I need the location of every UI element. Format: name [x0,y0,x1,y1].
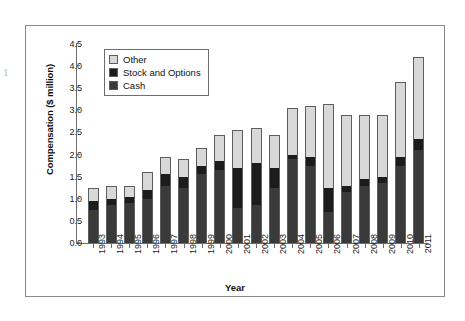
bar-segment-stock [413,139,424,150]
legend-item: Cash [109,79,201,92]
y-axis-tick-label: 4.5 [32,39,82,49]
x-axis-tick-label: 2000 [224,234,235,268]
bar-segment-stock [269,168,280,188]
bar-segment-stock [178,177,189,188]
x-axis-tick-mark [111,244,112,248]
x-axis-tick-label: 2010 [405,234,416,268]
x-axis-tick-label: 2006 [332,234,343,268]
y-axis-tick-label: 2.0 [32,150,82,160]
bar [341,115,352,243]
bar-segment-cash [287,159,298,243]
plot-area: 0.00.51.01.52.02.53.03.54.04.5 199319941… [76,44,428,244]
bar [251,128,262,243]
bar-segment-stock [142,190,153,199]
bar [323,104,334,243]
x-axis-tick-mark [274,244,275,248]
y-axis-tick-label: 3.0 [32,105,82,115]
y-axis-tick-mark [76,220,80,221]
x-axis-tick-mark [165,244,166,248]
x-axis-tick-mark [292,244,293,248]
x-axis-tick-mark [401,244,402,248]
bar-segment-other [251,128,262,163]
y-axis-tick-mark [76,176,80,177]
bar-segment-other [88,188,99,201]
y-axis-tick-label: 1.5 [32,172,82,182]
x-axis-tick-mark [310,244,311,248]
bar [214,135,225,243]
bar-segment-other [395,82,406,157]
bar-segment-other [196,148,207,166]
bar [305,106,316,243]
bar-segment-stock [160,174,171,185]
chart-legend: OtherStock and OptionsCash [104,49,209,96]
legend-label: Cash [123,80,145,91]
bar-segment-cash [395,166,406,243]
x-axis-tick-mark [202,244,203,248]
bar-segment-cash [214,170,225,243]
bar-segment-stock [323,188,334,212]
x-axis-tick-label: 2009 [387,234,398,268]
bar-segment-other [413,57,424,139]
bar [377,115,388,243]
bar-segment-other [214,135,225,162]
y-axis-tick-mark [76,154,80,155]
legend-label: Other [123,54,147,65]
y-axis-tick-label: 4.0 [32,61,82,71]
bar-segment-stock [251,163,262,205]
x-axis-tick-label: 2011 [423,234,434,268]
x-axis-tick-label: 2001 [242,234,253,268]
y-axis-tick-mark [76,65,80,66]
bar [232,130,243,243]
bar-segment-other [305,106,316,157]
bar-segment-other [287,108,298,154]
bar [395,82,406,243]
x-axis-tick-label: 2007 [351,234,362,268]
bar [413,57,424,243]
bar-segment-other [160,157,171,175]
x-axis-tick-mark [129,244,130,248]
bar-segment-stock [232,168,243,208]
bar-segment-other [269,135,280,168]
x-axis-tick-label: 1993 [97,234,108,268]
y-axis-tick-label: 1.0 [32,194,82,204]
bar-segment-stock [88,201,99,210]
x-axis-tick-mark [238,244,239,248]
bar [269,135,280,243]
bar [287,108,298,243]
bar-segment-other [323,104,334,188]
bar-segment-cash [196,174,207,243]
y-axis-tick-mark [76,87,80,88]
bar [142,172,153,243]
x-axis-tick-label: 1996 [151,234,162,268]
y-axis-tick-label: 0.5 [32,216,82,226]
bar-segment-stock [377,177,388,184]
x-axis-tick-mark [184,244,185,248]
x-axis-tick-label: 1998 [188,234,199,268]
x-axis-tick-label: 2005 [314,234,325,268]
x-axis-tick-label: 1999 [206,234,217,268]
x-axis-tick-label: 2002 [260,234,271,268]
x-axis-tick-mark [147,244,148,248]
bar-segment-stock [196,166,207,175]
bar-segment-stock [395,157,406,166]
bar [178,159,189,243]
x-axis-tick-mark [93,244,94,248]
bar-segment-stock [341,186,352,193]
legend-swatch-icon [109,81,118,90]
x-axis-tick-mark [365,244,366,248]
bar-segment-other [124,186,135,197]
legend-item: Other [109,53,201,66]
y-axis-tick-mark [76,131,80,132]
bar-segment-other [142,172,153,190]
y-axis-tick-label: 2.5 [32,127,82,137]
bar [160,157,171,243]
bar-segment-stock [214,161,225,170]
x-axis-tick-label: 2003 [278,234,289,268]
x-axis-tick-label: 1995 [133,234,144,268]
legend-label: Stock and Options [123,67,201,78]
x-axis-tick-mark [419,244,420,248]
bar [196,148,207,243]
bar-segment-other [232,130,243,168]
x-axis-tick-mark [256,244,257,248]
bar-segment-cash [413,150,424,243]
